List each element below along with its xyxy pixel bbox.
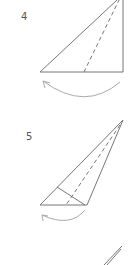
folding-diagram — [0, 0, 140, 265]
step-5-left-edge — [40, 120, 123, 205]
step-4-fold-line — [84, 0, 119, 72]
step-5-right-edge — [87, 120, 123, 205]
step-5-fold-line — [66, 125, 120, 205]
step-5-arrow-icon — [42, 210, 85, 221]
step-5-figure — [40, 120, 123, 205]
step-4-figure — [40, 0, 123, 72]
step-5-crease — [57, 187, 85, 205]
step-4-arrow-icon — [43, 81, 120, 97]
step-4-hypotenuse — [40, 0, 117, 72]
step-6-figure-partial — [104, 246, 122, 265]
